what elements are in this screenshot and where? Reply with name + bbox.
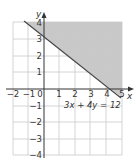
svg-text:−2: −2 [29, 117, 42, 127]
svg-text:−1: −1 [29, 101, 42, 111]
svg-text:4: 4 [104, 89, 109, 99]
svg-text:1: 1 [37, 67, 42, 77]
svg-text:−3: −3 [29, 134, 42, 144]
svg-text:−4: −4 [29, 150, 42, 160]
svg-text:3: 3 [37, 34, 42, 44]
svg-text:3: 3 [88, 89, 93, 99]
equation-label: 3x + 4y = 12 [64, 100, 121, 110]
x-tick-labels: −2 −1 0 1 2 3 4 5 [7, 89, 125, 99]
svg-text:4: 4 [37, 18, 42, 28]
svg-text:5: 5 [119, 89, 124, 99]
svg-text:2: 2 [72, 89, 77, 99]
inequality-graph: y x 4 3 2 1 −1 −2 −3 −4 −2 −1 0 1 2 3 4 … [0, 0, 140, 161]
y-axis-arrow-icon [42, 12, 47, 18]
svg-text:−1: −1 [23, 89, 36, 99]
svg-text:1: 1 [56, 89, 61, 99]
svg-text:2: 2 [37, 51, 42, 61]
svg-text:−2: −2 [7, 89, 20, 99]
svg-text:0: 0 [37, 89, 42, 99]
x-axis-label: x [126, 91, 133, 101]
